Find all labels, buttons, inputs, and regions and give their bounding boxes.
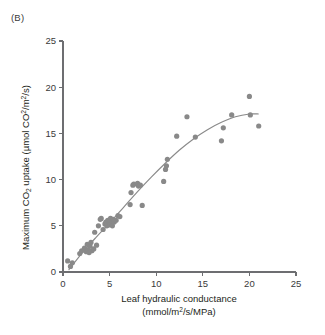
y-axis-tick-labels: 0510152025: [45, 35, 56, 277]
data-point: [221, 125, 226, 130]
data-point: [184, 114, 189, 119]
y-axis-ticks: [59, 41, 63, 272]
data-point: [88, 240, 93, 245]
data-point: [94, 243, 99, 248]
data-point: [100, 227, 105, 232]
figure-container: (B) 0510152025 0510152025 Maximum CO2 up…: [0, 0, 325, 335]
data-point: [193, 135, 198, 140]
x-axis-title-line2: (mmol/m2/s/MPa): [142, 306, 215, 317]
y-axis-title: Maximum CO2 uptake (µmol CO2/m2/s): [20, 85, 32, 250]
data-point: [114, 218, 119, 223]
x-tick-label: 20: [244, 278, 255, 289]
data-point: [164, 163, 169, 168]
x-axis-ticks: [63, 272, 296, 276]
data-point: [247, 94, 252, 99]
data-point: [117, 214, 122, 219]
data-point: [229, 112, 234, 117]
data-point: [256, 123, 261, 128]
y-tick-label: 0: [51, 266, 56, 277]
y-tick-label: 15: [45, 128, 56, 139]
data-point: [140, 203, 145, 208]
data-points: [65, 94, 261, 269]
data-point: [128, 190, 133, 195]
data-point: [165, 157, 170, 162]
data-point: [70, 260, 75, 265]
x-axis-title-line1: Leaf hydraulic conductance: [121, 293, 237, 304]
data-point: [248, 112, 253, 117]
x-tick-label: 10: [151, 278, 162, 289]
x-tick-label: 5: [107, 278, 112, 289]
x-axis-tick-labels: 0510152025: [60, 278, 301, 289]
y-tick-label: 5: [51, 220, 56, 231]
data-point: [65, 258, 70, 263]
data-point: [99, 216, 104, 221]
y-tick-label: 10: [45, 174, 56, 185]
data-point: [96, 223, 101, 228]
scatter-plot: 0510152025 0510152025 Maximum CO2 uptake…: [0, 0, 325, 335]
x-tick-label: 25: [291, 278, 302, 289]
data-point: [219, 138, 224, 143]
figure-caption-cropped: [8, 325, 318, 334]
data-point: [128, 202, 133, 207]
x-tick-label: 15: [198, 278, 209, 289]
data-point: [161, 179, 166, 184]
x-tick-label: 0: [60, 278, 65, 289]
data-point: [174, 134, 179, 139]
y-tick-label: 20: [45, 82, 56, 93]
data-point: [138, 183, 143, 188]
y-tick-label: 25: [45, 35, 56, 46]
data-point: [92, 230, 97, 235]
